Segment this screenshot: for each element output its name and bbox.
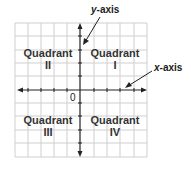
quadrant-ii-label: QuadrantII bbox=[18, 47, 78, 71]
x-axis-label: x-axis bbox=[154, 62, 182, 73]
y-axis-label: y-axis bbox=[91, 4, 119, 15]
quadrant-i-label: QuadrantI bbox=[85, 47, 145, 71]
quadrant-iv-label: QuadrantIV bbox=[85, 114, 145, 138]
y-axis-down-arrow-icon bbox=[78, 151, 83, 157]
y-axis-up-arrow-icon bbox=[78, 23, 83, 29]
y-axis-pointer bbox=[85, 17, 100, 42]
quadrant-iii-label: QuadrantIII bbox=[18, 114, 78, 138]
origin-label: 0 bbox=[70, 92, 76, 103]
x-axis-right-arrow-icon bbox=[141, 88, 147, 93]
coordinate-grid bbox=[0, 0, 191, 170]
x-axis-pointer bbox=[128, 71, 152, 86]
x-axis-left-arrow-icon bbox=[17, 88, 23, 93]
